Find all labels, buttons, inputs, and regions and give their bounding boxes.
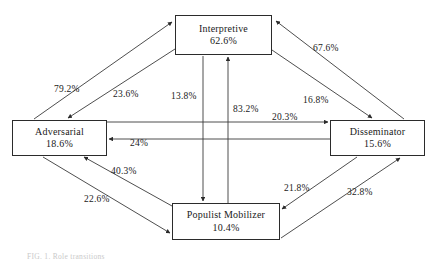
edge-label-adversarial-to-disseminator: 20.3% — [272, 112, 298, 122]
edge-label-disseminator-to-populist: 21.8% — [284, 183, 310, 193]
figure-canvas: Interpretive 62.6% Adversarial 18.6% Dis… — [0, 0, 435, 263]
node-interpretive: Interpretive 62.6% — [175, 15, 272, 55]
figure-caption: FIG. 1. Role transitions — [27, 252, 105, 261]
node-adversarial-value: 18.6% — [46, 138, 73, 151]
node-disseminator: Disseminator 15.6% — [330, 120, 425, 156]
edge-label-interpretive-to-populist: 13.8% — [171, 91, 197, 101]
edge-populist-to-disseminator — [281, 158, 400, 238]
node-adversarial: Adversarial 18.6% — [12, 120, 107, 156]
node-interpretive-value: 62.6% — [210, 35, 237, 48]
node-populist-mobilizer-value: 10.4% — [213, 222, 240, 235]
edge-disseminator-to-interpretive — [276, 21, 404, 119]
edge-label-populist-to-disseminator: 32.8% — [347, 187, 373, 197]
node-interpretive-label: Interpretive — [199, 23, 248, 36]
node-disseminator-value: 15.6% — [364, 138, 391, 151]
edge-label-adversarial-to-interpretive: 79.2% — [54, 84, 80, 94]
edge-label-disseminator-to-interpretive: 67.6% — [313, 43, 339, 53]
edge-label-interpretive-to-disseminator: 16.8% — [303, 95, 329, 105]
edge-label-adversarial-to-populist: 22.6% — [84, 194, 110, 204]
edge-label-interpretive-to-adversarial: 23.6% — [113, 89, 139, 99]
node-populist-mobilizer: Populist Mobilizer 10.4% — [172, 203, 280, 240]
node-adversarial-label: Adversarial — [35, 126, 84, 139]
edge-interpretive-to-disseminator — [272, 50, 372, 118]
edge-adversarial-to-interpretive — [34, 22, 172, 119]
node-disseminator-label: Disseminator — [350, 126, 406, 139]
node-populist-mobilizer-label: Populist Mobilizer — [187, 209, 265, 222]
edge-label-disseminator-to-adversarial: 24% — [130, 138, 148, 148]
edge-label-populist-to-adversarial: 40.3% — [111, 166, 137, 176]
edge-label-populist-to-interpretive: 83.2% — [233, 104, 259, 114]
